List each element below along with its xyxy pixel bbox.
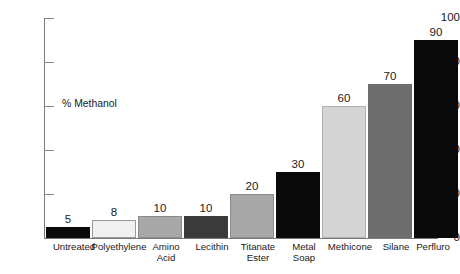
bar-chart: 100 80 60 40 20 0 % Methanol 5 8 10 10: [0, 0, 460, 274]
x-axis-line: [44, 238, 438, 239]
bar-slot-metal-soap: 30: [276, 172, 320, 238]
bar-untreated: [46, 227, 90, 238]
bar-perfluro: [414, 40, 458, 238]
bar-methicone: [322, 106, 366, 238]
x-label-perfluro: Perfluro: [406, 241, 460, 252]
x-label-perfluro-line1: Perfluro: [406, 241, 460, 252]
plot-area: 5 8 10 10 20 30 60 70: [44, 18, 438, 238]
bar-value-silane: 70: [368, 71, 412, 83]
bar-slot-perfluro: 90: [414, 40, 458, 238]
bar-polyethylene: [92, 220, 136, 238]
bar-amino-acid: [138, 216, 182, 238]
bar-slot-lecithin: 10: [184, 216, 228, 238]
bar-slot-polyethylene: 8: [92, 220, 136, 238]
bar-value-titanate-ester: 20: [230, 181, 274, 193]
bar-metal-soap: [276, 172, 320, 238]
bar-slot-methicone: 60: [322, 106, 366, 238]
bar-slot-untreated: 5: [46, 227, 90, 238]
x-label-metal-soap-line2: Soap: [268, 252, 340, 263]
x-label-amino-acid-line2: Acid: [130, 252, 202, 263]
bar-slot-titanate-ester: 20: [230, 194, 274, 238]
bar-value-polyethylene: 8: [92, 207, 136, 219]
bar-slot-silane: 70: [368, 84, 412, 238]
bar-value-untreated: 5: [46, 214, 90, 226]
bar-silane: [368, 84, 412, 238]
bar-value-methicone: 60: [322, 93, 366, 105]
bar-slot-amino-acid: 10: [138, 216, 182, 238]
bar-lecithin: [184, 216, 228, 238]
bar-value-lecithin: 10: [184, 203, 228, 215]
bar-value-metal-soap: 30: [276, 159, 320, 171]
bar-titanate-ester: [230, 194, 274, 238]
bar-value-perfluro: 90: [414, 27, 458, 39]
bar-value-amino-acid: 10: [138, 203, 182, 215]
